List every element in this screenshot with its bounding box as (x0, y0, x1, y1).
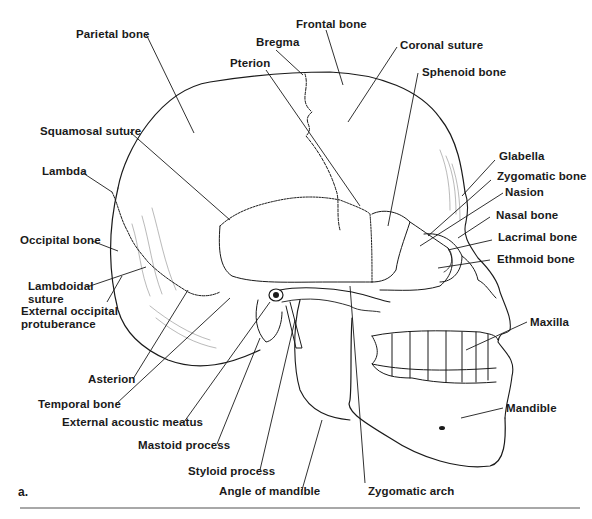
label-angle-of-mandible: Angle of mandible (219, 485, 320, 498)
label-ethmoid-bone: Ethmoid bone (497, 253, 575, 266)
label-occipital-bone: Occipital bone (20, 234, 101, 247)
label-lambdoidal-suture: Lambdoidal suture (28, 280, 98, 306)
label-lacrimal-bone: Lacrimal bone (498, 231, 577, 244)
label-styloid-process: Styloid process (188, 465, 275, 478)
lambdoidal-suture-line (112, 192, 220, 296)
label-nasal-bone: Nasal bone (496, 209, 558, 222)
mastoid-process-shape (256, 300, 282, 342)
orbit-outline (424, 234, 462, 282)
squamosal-suture-line (220, 197, 372, 282)
bottom-divider (20, 507, 580, 509)
skull-lateral-diagram: Parietal bone Frontal bone Bregma Corona… (0, 0, 592, 519)
cranium-outline (118, 72, 465, 192)
label-mandible: Mandible (506, 402, 557, 415)
panel-letter: a. (18, 485, 28, 499)
label-lambda: Lambda (42, 165, 87, 178)
label-nasion: Nasion (505, 186, 544, 199)
label-squamosal-suture: Squamosal suture (40, 125, 141, 138)
label-pterion: Pterion (230, 57, 270, 70)
label-asterion: Asterion (88, 373, 135, 386)
label-maxilla: Maxilla (530, 316, 569, 329)
label-zygomatic-bone: Zygomatic bone (497, 170, 587, 183)
label-zygomatic-arch: Zygomatic arch (368, 485, 454, 498)
label-frontal-bone: Frontal bone (296, 18, 367, 31)
label-parietal-bone: Parietal bone (76, 28, 150, 41)
label-glabella: Glabella (499, 150, 545, 163)
label-sphenoid-bone: Sphenoid bone (422, 66, 506, 79)
label-temporal-bone: Temporal bone (38, 398, 121, 411)
label-bregma: Bregma (256, 36, 299, 49)
label-external-acoustic-meatus: External acoustic meatus (62, 416, 203, 429)
label-mastoid-process: Mastoid process (138, 439, 230, 452)
teeth (372, 331, 498, 383)
label-coronal-suture: Coronal suture (400, 39, 483, 52)
label-external-occipital-protuberance: External occipital protuberance (21, 305, 131, 331)
